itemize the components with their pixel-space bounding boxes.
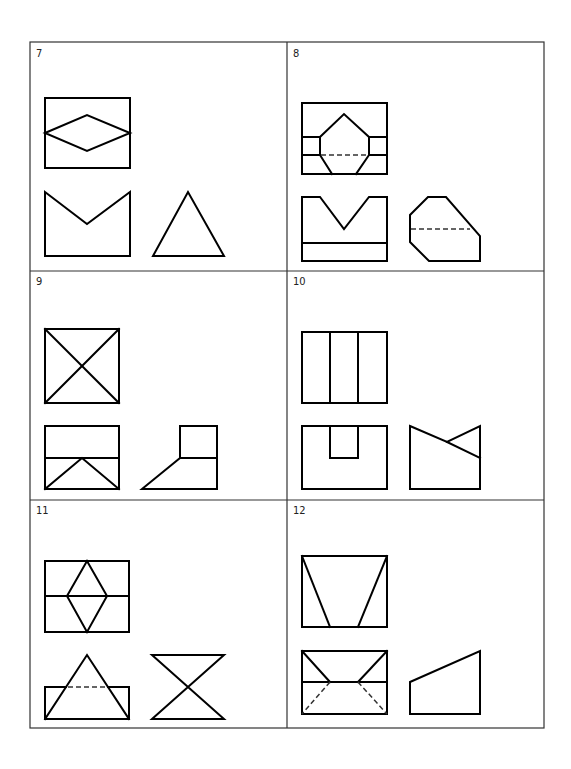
hidden-line xyxy=(358,682,387,714)
grid-frame xyxy=(30,42,544,728)
side-view xyxy=(142,426,217,489)
panel-10: 10 xyxy=(293,275,480,489)
side-view xyxy=(153,192,224,256)
panel-11: 11 xyxy=(36,504,224,719)
side-view xyxy=(410,197,480,261)
panel-number: 7 xyxy=(36,47,42,60)
panel-7: 7 xyxy=(36,47,224,256)
panel-9: 9 xyxy=(36,275,217,489)
side-view xyxy=(410,651,480,714)
side-view xyxy=(410,426,480,489)
front-view xyxy=(302,651,387,714)
front-view xyxy=(45,192,130,256)
front-view xyxy=(302,197,387,261)
panel-number: 12 xyxy=(293,504,306,517)
panel-number: 9 xyxy=(36,275,42,288)
top-view xyxy=(302,332,387,403)
top-view xyxy=(302,103,387,174)
front-view xyxy=(302,426,387,489)
panel-number: 10 xyxy=(293,275,306,288)
drawing-sheet: 7 8 9 xyxy=(0,0,571,769)
top-view xyxy=(302,556,387,627)
panel-number: 8 xyxy=(293,47,299,60)
top-view xyxy=(45,561,129,632)
front-view xyxy=(45,426,119,489)
side-view xyxy=(152,655,224,719)
panel-number: 11 xyxy=(36,504,49,517)
top-view xyxy=(45,329,119,403)
panel-12: 12 xyxy=(293,504,480,714)
panel-8: 8 xyxy=(293,47,480,261)
hidden-line xyxy=(302,682,330,714)
top-view xyxy=(45,98,130,168)
front-view xyxy=(45,655,129,719)
